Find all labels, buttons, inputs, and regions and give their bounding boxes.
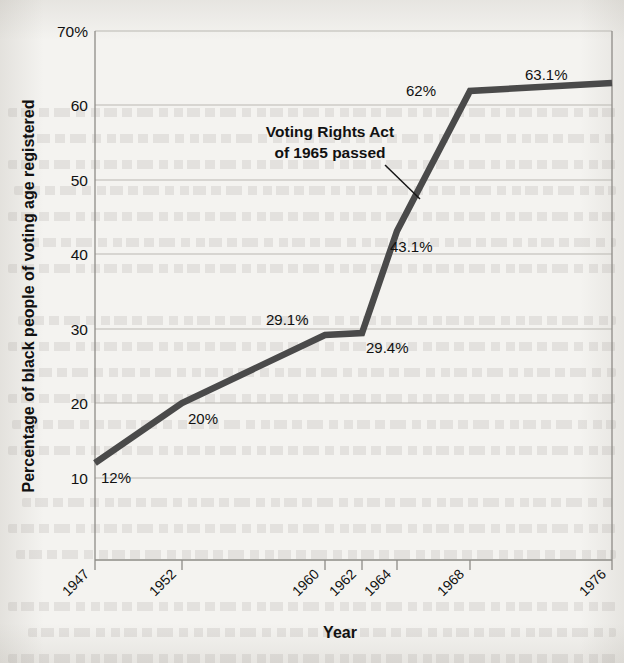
y-tick-label: 40 [71, 246, 89, 263]
annotation-line-1: Voting Rights Act [266, 123, 394, 140]
plot-axes [95, 31, 612, 560]
y-tick-label: 60 [71, 97, 89, 114]
x-tick-label: 1960 [289, 566, 322, 599]
x-axis-title: Year [323, 624, 357, 641]
data-series-line [95, 83, 612, 463]
x-tick-label: 1947 [59, 566, 92, 599]
line-chart: Percentage of black people of voting age… [0, 0, 624, 663]
x-tick-label: 1976 [576, 566, 609, 599]
x-tick-label: 1964 [361, 566, 394, 599]
data-label-1947: 12% [101, 469, 131, 486]
data-label-1952: 20% [188, 410, 218, 427]
chart-figure: Percentage of black people of voting age… [0, 0, 624, 663]
x-tick-label: 1952 [146, 566, 179, 599]
x-tick-label: 1968 [434, 566, 467, 599]
annotation-line-2: of 1965 passed [274, 144, 385, 161]
x-axis-tickmarks [95, 560, 612, 570]
data-label-1962: 29.4% [366, 339, 409, 356]
y-axis-tick-labels: 70% 60 50 40 30 20 10 [57, 23, 88, 487]
annotation-leader-line [385, 165, 420, 199]
x-tick-label: 1962 [326, 566, 359, 599]
data-label-1960: 29.1% [266, 311, 309, 328]
y-tick-label: 30 [71, 321, 89, 338]
data-label-1976: 63.1% [525, 66, 568, 83]
data-label-1968: 62% [406, 82, 436, 99]
y-tick-label: 20 [71, 395, 89, 412]
annotation-voting-rights-act: Voting Rights Act of 1965 passed [266, 123, 420, 199]
y-axis-title: Percentage of black people of voting age… [20, 100, 37, 493]
y-tick-label: 50 [71, 172, 89, 189]
x-axis-tick-labels: 1947 1952 1960 1962 1964 1968 1976 [59, 566, 609, 599]
data-label-1964: 43.1% [390, 238, 433, 255]
y-tick-label: 10 [71, 470, 89, 487]
y-tick-label: 70% [57, 23, 88, 40]
